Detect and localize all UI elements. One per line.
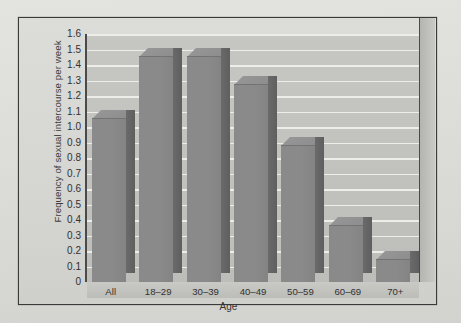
bar-front-face <box>234 84 268 282</box>
y-axis-tick-label: 0 <box>49 277 81 287</box>
bar-front-face <box>376 259 410 282</box>
y-axis-tick-label: 1.4 <box>49 60 81 70</box>
bar <box>281 137 315 282</box>
x-axis-tick-label: 40–49 <box>240 286 267 297</box>
chart-figure-frame: Frequency of sexual intercourse per week… <box>18 17 437 305</box>
y-axis-tick-label: 0.4 <box>49 215 81 225</box>
y-axis-tick-label: 0.2 <box>49 246 81 256</box>
bar-side-face <box>363 217 372 273</box>
x-axis-tick-label: 60–69 <box>335 286 362 297</box>
bar-side-face <box>268 76 277 273</box>
y-axis-tick-label: 0.7 <box>49 169 81 179</box>
y-axis-tick-label: 0.6 <box>49 184 81 194</box>
bar-front-face <box>139 56 173 282</box>
x-axis-title: Age <box>19 301 438 312</box>
bar-front-face <box>92 118 126 282</box>
bar-side-face <box>315 137 324 273</box>
bar <box>187 48 221 282</box>
bar <box>92 110 126 282</box>
y-axis-tick-label: 0.5 <box>49 200 81 210</box>
y-axis-tick-label: 0.9 <box>49 138 81 148</box>
bar-front-face <box>329 225 363 282</box>
bar-side-face <box>410 251 419 273</box>
bar <box>139 48 173 282</box>
y-axis-tick-label: 0.3 <box>49 231 81 241</box>
y-axis-tick-label: 1.1 <box>49 107 81 117</box>
y-axis-tick-labels: 1.61.51.41.31.21.11.00.90.80.70.60.50.40… <box>49 26 81 282</box>
x-axis-tick-label: 70+ <box>387 286 403 297</box>
x-axis-tick-label: All <box>105 286 116 297</box>
y-axis-tick-label: 1.5 <box>49 45 81 55</box>
bar-side-face <box>173 48 182 273</box>
y-axis-tick-label: 1.3 <box>49 76 81 86</box>
y-axis-tick-label: 0.1 <box>49 262 81 272</box>
x-axis-tick-labels: All18–2930–3940–4950–5960–6970+ <box>85 286 431 302</box>
scanned-page-background: Frequency of sexual intercourse per week… <box>0 0 461 323</box>
y-axis-tick-label: 0.8 <box>49 153 81 163</box>
y-axis-tick-label: 1.0 <box>49 122 81 132</box>
bar-front-face <box>281 145 315 282</box>
x-axis-tick-label: 18–29 <box>145 286 172 297</box>
plot-area <box>85 34 419 282</box>
bar-front-face <box>187 56 221 282</box>
bar-side-face <box>126 110 135 273</box>
y-axis-tick-label: 1.2 <box>49 91 81 101</box>
bar-series <box>87 34 419 282</box>
bar <box>376 251 410 282</box>
plot-right-wall <box>419 18 435 282</box>
bar <box>329 217 363 282</box>
x-axis-tick-label: 50–59 <box>287 286 314 297</box>
y-axis-tick-label: 1.6 <box>49 29 81 39</box>
bar-side-face <box>221 48 230 273</box>
bar <box>234 76 268 282</box>
x-axis-tick-label: 30–39 <box>192 286 219 297</box>
